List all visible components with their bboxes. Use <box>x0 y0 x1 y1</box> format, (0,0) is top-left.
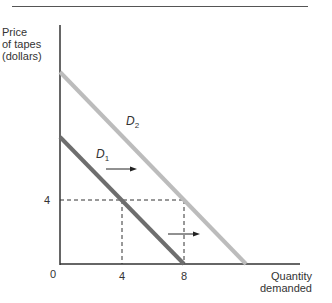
chart-plot <box>0 0 332 303</box>
x-tick-4: 4 <box>119 270 125 282</box>
origin-label: 0 <box>50 268 56 280</box>
arrow-right-icon <box>193 232 200 237</box>
x-label-line-2: demanded <box>248 282 312 294</box>
d2-label: D2 <box>126 115 139 132</box>
arrow-right-icon <box>130 167 137 172</box>
d1-label: D1 <box>96 148 109 165</box>
x-tick-8: 8 <box>181 270 187 282</box>
y-tick-4: 4 <box>44 194 50 206</box>
x-axis-label: Quantity demanded <box>248 270 312 294</box>
x-label-line-1: Quantity <box>248 270 312 282</box>
